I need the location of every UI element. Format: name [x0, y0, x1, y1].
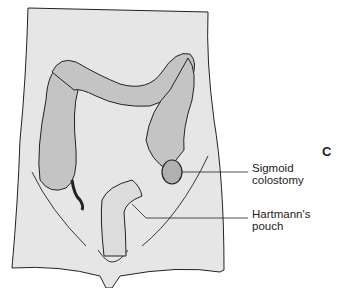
- anatomy-drawing: [0, 0, 337, 288]
- label-line: pouch: [252, 220, 310, 232]
- label-line: colostomy: [252, 174, 304, 186]
- colostomy-stoma: [162, 160, 182, 184]
- label-line: Hartmann's: [252, 208, 310, 220]
- label-line: Sigmoid: [252, 162, 304, 174]
- sigmoid-colostomy-label: Sigmoid colostomy: [252, 162, 304, 186]
- hartmanns-pouch-label: Hartmann's pouch: [252, 208, 310, 232]
- illustration: C Sigmoid colostomy Hartmann's pouch: [0, 0, 337, 288]
- panel-letter: C: [322, 144, 331, 159]
